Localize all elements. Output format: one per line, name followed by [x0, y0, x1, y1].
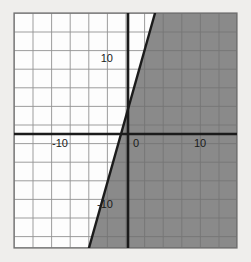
- x-axis-tick-label-10: 10: [194, 137, 206, 149]
- inequality-graph-figure: 10 -10 -10 10 0: [0, 0, 251, 262]
- coordinate-plane-plot: 10 -10 -10 10 0: [0, 0, 251, 262]
- x-axis-tick-label-negative-10: -10: [52, 137, 68, 149]
- y-axis-tick-label-negative-10: -10: [97, 198, 113, 210]
- y-axis-tick-label-10: 10: [101, 52, 113, 64]
- origin-label: 0: [133, 137, 139, 149]
